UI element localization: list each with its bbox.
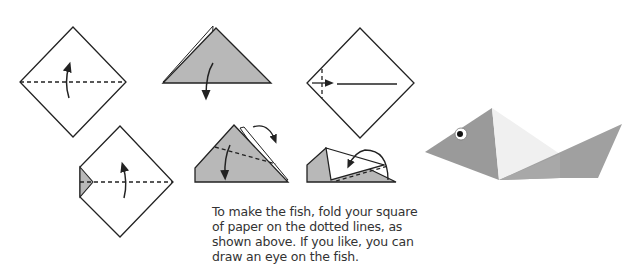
step-4-diagram xyxy=(80,126,173,237)
fish-eye-icon xyxy=(455,128,467,140)
instructions-caption: To make the fish, fold your square of pa… xyxy=(212,204,432,264)
caption-line-1: To make the fish, fold your square xyxy=(212,204,432,219)
step-3-diagram xyxy=(307,28,414,138)
step-1-diagram xyxy=(20,27,126,137)
step-5-diagram xyxy=(195,125,288,182)
caption-line-2: of paper on the dotted lines, as xyxy=(212,219,432,234)
finished-fish xyxy=(425,108,622,180)
caption-line-4: draw an eye on the fish. xyxy=(212,249,432,264)
caption-line-3: shown above. If you like, you can xyxy=(212,234,432,249)
step-2-diagram xyxy=(163,26,271,96)
step-6-diagram xyxy=(307,148,396,182)
